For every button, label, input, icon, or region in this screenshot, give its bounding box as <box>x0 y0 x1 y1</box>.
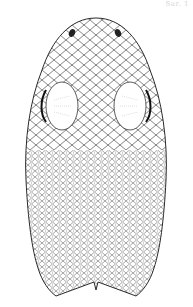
reptile-head-illustration <box>0 0 193 307</box>
head-outline <box>0 0 193 307</box>
